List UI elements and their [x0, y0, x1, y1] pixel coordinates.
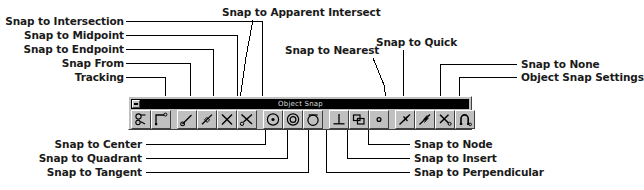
leader-object-snap-settings	[460, 78, 518, 97]
none-icon	[437, 112, 453, 127]
leader-snap-to-tangent	[146, 130, 309, 173]
toolbar-button-snap-to-none[interactable]	[435, 110, 455, 129]
quadrant-icon	[285, 112, 301, 127]
leader-snap-to-nearest	[373, 58, 386, 96]
callout-snap-to-quadrant: Snap to Quadrant	[0, 152, 142, 164]
leader-snap-to-node	[369, 130, 411, 145]
insert-icon	[351, 112, 367, 127]
tangent-icon	[305, 112, 321, 127]
toolbar-button-snap-to-nearest[interactable]	[395, 110, 415, 129]
callout-snap-to-center: Snap to Center	[0, 138, 142, 150]
callout-snap-to-node: Snap to Node	[414, 138, 493, 150]
callout-tracking: Tracking	[0, 71, 124, 83]
endpoint-icon	[179, 112, 195, 127]
toolbar-button-tracking[interactable]	[131, 110, 151, 129]
leader-snap-from	[126, 64, 191, 97]
leader-tracking	[126, 78, 166, 97]
callout-snap-to-endpoint: Snap to Endpoint	[0, 43, 124, 55]
toolbar-button-snap-to-quadrant[interactable]	[283, 110, 303, 129]
node-icon	[371, 112, 387, 127]
button-group-geometry	[329, 110, 389, 129]
leader-snap-to-apparent-intersect	[241, 20, 254, 96]
leader-snap-to-none	[441, 65, 518, 97]
toolbar-button-object-snap-settings[interactable]	[455, 110, 475, 129]
toolbar-button-snap-to-insert[interactable]	[349, 110, 369, 129]
perpendicular-icon	[331, 112, 347, 127]
callout-snap-to-none: Snap to None	[521, 58, 600, 70]
button-group-misc	[395, 110, 475, 129]
snap-from-icon	[153, 112, 169, 127]
toolbar-button-snap-to-tangent[interactable]	[303, 110, 323, 129]
callout-snap-to-insert: Snap to Insert	[414, 152, 497, 164]
apparent-intersect-icon	[239, 112, 255, 127]
toolbar-button-snap-to-perpendicular[interactable]	[329, 110, 349, 129]
callout-snap-from: Snap From	[0, 57, 124, 69]
toolbar-button-snap-to-node[interactable]	[369, 110, 389, 129]
button-group-points	[177, 110, 257, 129]
toolbar-titlebar[interactable]: Object Snap	[131, 99, 469, 109]
intersection-icon	[219, 112, 235, 127]
toolbar-button-snap-from[interactable]	[151, 110, 171, 129]
quick-icon	[417, 112, 433, 127]
object-snap-toolbar[interactable]: Object Snap	[128, 96, 472, 130]
nearest-icon	[397, 112, 413, 127]
leader-snap-to-midpoint	[126, 36, 238, 97]
toolbar-button-row	[131, 110, 475, 129]
midpoint-icon	[199, 112, 215, 127]
callout-snap-to-midpoint: Snap to Midpoint	[0, 29, 124, 41]
osnap-settings-magnet-icon	[457, 112, 473, 127]
button-group-tracking	[131, 110, 171, 129]
toolbar-button-snap-to-intersection[interactable]	[217, 110, 237, 129]
callout-snap-to-nearest: Snap to Nearest	[285, 44, 379, 56]
toolbar-button-snap-to-endpoint[interactable]	[177, 110, 197, 129]
callout-snap-to-apparent-intersect: Snap to Apparent Intersect	[222, 6, 381, 18]
toolbar-button-snap-to-quick[interactable]	[415, 110, 435, 129]
leader-snap-to-center	[146, 130, 266, 145]
callout-snap-to-tangent: Snap to Tangent	[0, 166, 142, 178]
center-icon	[265, 112, 281, 127]
toolbar-button-snap-to-midpoint[interactable]	[197, 110, 217, 129]
leader-snap-to-endpoint	[126, 50, 214, 97]
toolbar-button-snap-to-apparent-intersect[interactable]	[237, 110, 257, 129]
system-menu-icon[interactable]	[132, 100, 140, 108]
callout-snap-to-perpendicular: Snap to Perpendicular	[414, 166, 544, 178]
callout-snap-to-quick: Snap to Quick	[376, 36, 457, 48]
button-group-circles	[263, 110, 323, 129]
toolbar-button-snap-to-center[interactable]	[263, 110, 283, 129]
toolbar-title: Object Snap	[140, 100, 461, 108]
callout-snap-to-intersection: Snap to Intersection	[0, 15, 124, 27]
tracking-icon	[133, 112, 149, 127]
callout-object-snap-settings: Object Snap Settings	[521, 71, 644, 83]
